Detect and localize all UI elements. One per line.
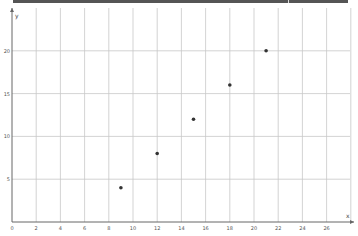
x-tick-label: 12 bbox=[154, 225, 160, 231]
x-tick-label: 16 bbox=[202, 225, 208, 231]
data-point bbox=[192, 117, 196, 121]
x-tick-label: 22 bbox=[275, 225, 281, 231]
y-axis-arrow-icon bbox=[10, 8, 14, 12]
x-tick-label: 8 bbox=[107, 225, 110, 231]
x-tick-label: 10 bbox=[130, 225, 136, 231]
data-points bbox=[119, 49, 268, 190]
y-axis-label: y bbox=[15, 12, 19, 20]
y-tick-label: 15 bbox=[4, 91, 10, 97]
x-tick-label: 0 bbox=[10, 225, 13, 231]
data-point bbox=[119, 186, 123, 190]
data-point bbox=[155, 152, 159, 156]
x-axis-label: x bbox=[346, 212, 350, 219]
data-point bbox=[228, 83, 232, 87]
x-tick-label: 18 bbox=[227, 225, 233, 231]
x-tick-label: 14 bbox=[178, 225, 184, 231]
data-point bbox=[264, 49, 268, 53]
x-axis-arrow-icon bbox=[350, 220, 354, 224]
x-tick-label: 6 bbox=[83, 225, 86, 231]
y-tick-label: 20 bbox=[4, 48, 10, 54]
x-tick-label: 4 bbox=[59, 225, 62, 231]
x-tick-label: 24 bbox=[299, 225, 305, 231]
y-tick-label: 10 bbox=[4, 133, 10, 139]
grid-lines bbox=[12, 8, 351, 222]
x-tick-label: 20 bbox=[251, 225, 257, 231]
scatter-chart[interactable]: xy024681012141618202224265101520 bbox=[0, 0, 358, 236]
x-tick-label: 26 bbox=[323, 225, 329, 231]
x-tick-label: 2 bbox=[35, 225, 38, 231]
tick-labels: xy024681012141618202224265101520 bbox=[4, 12, 350, 231]
y-tick-label: 5 bbox=[7, 176, 10, 182]
